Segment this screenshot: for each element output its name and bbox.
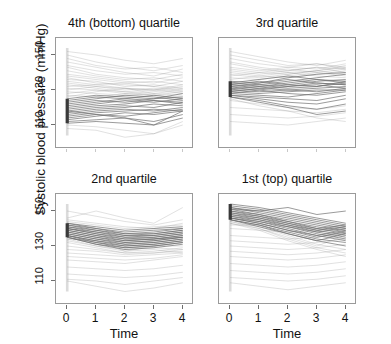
- axis-tick-mark: [51, 245, 55, 246]
- x-tick-label-1: 1: [250, 311, 266, 325]
- axis-tick-mark: [287, 149, 288, 152]
- panel-title-1st-top-quartile: 1st (top) quartile: [218, 172, 356, 186]
- x-tick-label-1: 1: [87, 311, 103, 325]
- x-tick-label-4: 4: [174, 311, 190, 325]
- plot-area-1st-top-quartile: [218, 193, 356, 304]
- axis-tick-mark: [316, 305, 317, 309]
- axis-tick-mark: [51, 280, 55, 281]
- axis-tick-mark: [51, 54, 55, 55]
- trajectory-line: [67, 265, 183, 270]
- trajectory-line: [67, 278, 183, 285]
- trajectory-line: [230, 215, 346, 231]
- plot-area-3rd-quartile: [218, 37, 356, 148]
- axis-tick-mark: [124, 305, 125, 309]
- trajectory-line: [230, 95, 346, 100]
- trajectory-line: [230, 262, 346, 267]
- plot-area-2nd-quartile: [55, 193, 193, 304]
- trajectory-line: [230, 255, 346, 260]
- x-tick-label-0: 0: [221, 311, 237, 325]
- trajectory-line: [67, 52, 183, 64]
- axis-tick-mark: [66, 149, 67, 152]
- trajectory-line: [67, 272, 183, 277]
- axis-tick-mark: [95, 305, 96, 309]
- x-tick-label-0: 0: [58, 311, 74, 325]
- axis-tick-mark: [51, 210, 55, 211]
- panel-2nd-quartile: 2nd quartile: [55, 172, 193, 304]
- axis-tick-mark: [229, 305, 230, 309]
- axis-tick-mark: [182, 305, 183, 309]
- trajectory-line: [67, 208, 183, 224]
- trajectory-line: [230, 113, 346, 118]
- axis-tick-mark: [287, 305, 288, 309]
- y-tick-label-130: 130: [33, 76, 45, 94]
- x-axis-title-left: Time: [55, 326, 193, 341]
- axis-tick-mark: [51, 124, 55, 125]
- trajectory-line: [230, 276, 346, 281]
- panel-4th-bottom-quartile: 4th (bottom) quartile: [55, 16, 193, 148]
- baseline-density-bar: [229, 81, 232, 97]
- y-tick-label-130: 130: [33, 232, 45, 250]
- trajectory-line: [67, 125, 183, 137]
- figure-panel-grid: Systolic blood pressure (mmHg) 4th (bott…: [0, 0, 391, 344]
- spaghetti-lines-p1: [219, 194, 356, 304]
- trajectory-line: [230, 244, 346, 249]
- plot-area-4th-bottom-quartile: [55, 37, 193, 148]
- x-tick-label-3: 3: [145, 311, 161, 325]
- axis-tick-mark: [153, 149, 154, 152]
- trajectory-line: [230, 108, 346, 113]
- x-tick-label-4: 4: [337, 311, 353, 325]
- axis-tick-mark: [316, 149, 317, 152]
- x-tick-label-2: 2: [279, 311, 295, 325]
- y-tick-label-150: 150: [33, 41, 45, 59]
- axis-tick-mark: [66, 305, 67, 309]
- baseline-spread-bar: [66, 204, 69, 292]
- spaghetti-lines-p2: [56, 194, 193, 304]
- baseline-density-bar: [66, 223, 69, 237]
- trajectory-line: [67, 281, 183, 292]
- x-tick-label-2: 2: [116, 311, 132, 325]
- trajectory-line: [230, 283, 346, 290]
- baseline-density-bar: [66, 99, 69, 124]
- panel-title-4th-bottom-quartile: 4th (bottom) quartile: [55, 16, 193, 30]
- axis-tick-mark: [229, 149, 230, 152]
- trajectory-line: [230, 206, 346, 225]
- panel-3rd-quartile: 3rd quartile: [218, 16, 356, 148]
- axis-tick-mark: [124, 149, 125, 152]
- spaghetti-lines-p3: [219, 38, 356, 148]
- y-tick-label-110: 110: [33, 267, 45, 285]
- panel-title-2nd-quartile: 2nd quartile: [55, 172, 193, 186]
- axis-tick-mark: [258, 305, 259, 309]
- y-tick-label-150: 150: [33, 197, 45, 215]
- x-axis-title-right: Time: [218, 326, 356, 341]
- panel-1st-top-quartile: 1st (top) quartile: [218, 172, 356, 304]
- y-tick-label-110: 110: [33, 111, 45, 129]
- axis-tick-mark: [95, 149, 96, 152]
- trajectory-line: [67, 74, 183, 83]
- panel-title-3rd-quartile: 3rd quartile: [218, 16, 356, 30]
- trajectory-line: [67, 255, 183, 260]
- axis-tick-mark: [182, 149, 183, 152]
- axis-tick-mark: [258, 149, 259, 152]
- x-tick-label-3: 3: [308, 311, 324, 325]
- axis-tick-mark: [345, 149, 346, 152]
- trajectory-line: [230, 269, 346, 274]
- baseline-density-bar: [229, 204, 232, 220]
- axis-tick-mark: [51, 89, 55, 90]
- axis-tick-mark: [153, 305, 154, 309]
- axis-tick-mark: [345, 305, 346, 309]
- spaghetti-lines-p4: [56, 38, 193, 148]
